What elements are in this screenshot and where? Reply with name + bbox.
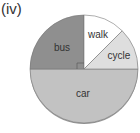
label-car: car [76,88,91,99]
pie-chart: bus walk cycle car [0,0,140,133]
label-walk: walk [87,29,109,40]
label-cycle: cycle [108,50,131,61]
label-bus: bus [54,42,70,53]
